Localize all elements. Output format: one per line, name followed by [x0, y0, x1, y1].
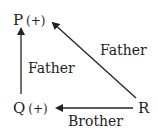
node-q-name: Q: [13, 99, 25, 117]
node-q: Q(+): [13, 100, 48, 117]
node-p-sign: (+): [26, 14, 45, 28]
node-q-sign: (+): [28, 102, 47, 116]
edge-label-r-q: Brother: [68, 114, 123, 129]
node-p: P(+): [13, 12, 46, 29]
node-p-name: P: [13, 11, 23, 29]
node-r: R: [138, 100, 149, 116]
edge-label-r-p: Father: [100, 43, 147, 58]
edge-label-q-p: Father: [28, 61, 75, 76]
node-r-name: R: [138, 99, 149, 117]
